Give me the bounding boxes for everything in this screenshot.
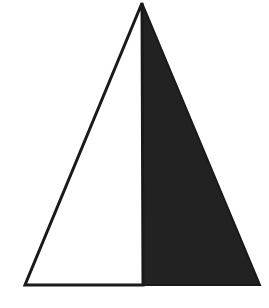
shaded-right-region: [142, 3, 260, 285]
white-left-region: [25, 3, 143, 285]
triangle-diagram: [0, 0, 269, 308]
